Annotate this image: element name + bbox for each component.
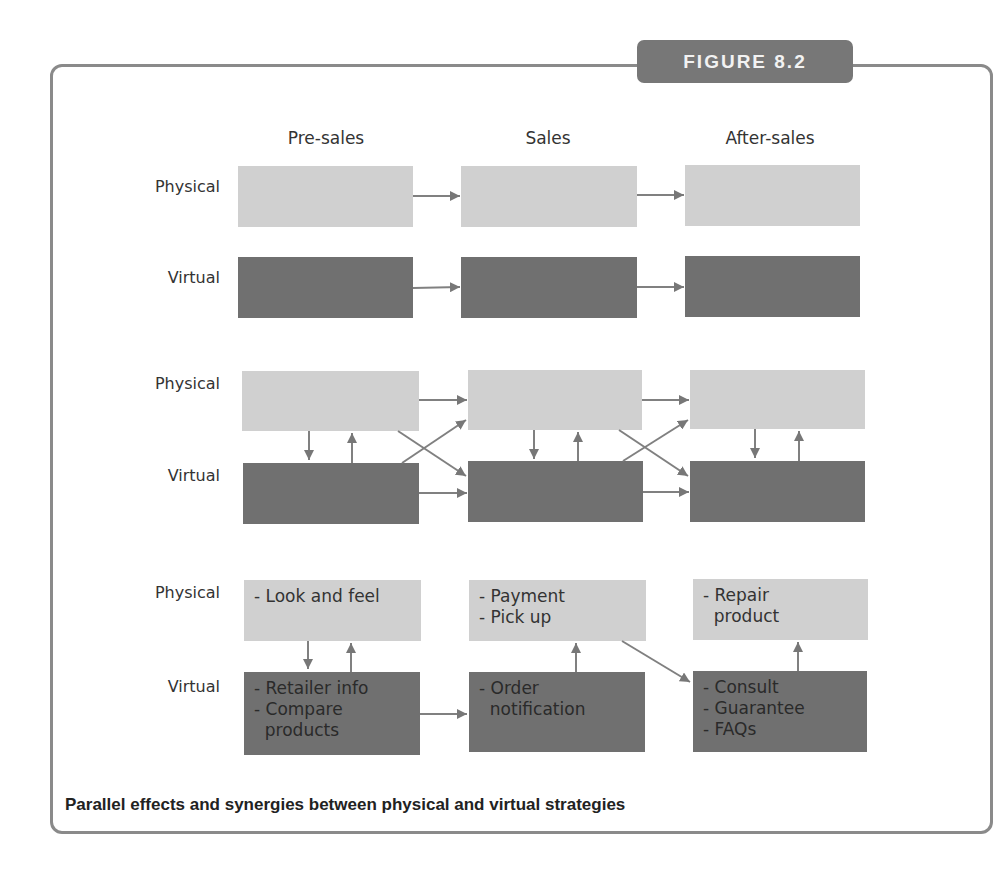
figure-caption: Parallel effects and synergies between p… (65, 795, 625, 815)
arrow-icon (402, 420, 466, 463)
arrows-layer (0, 0, 1007, 880)
arrow-icon (622, 641, 690, 682)
arrow-icon (398, 431, 466, 476)
arrow-icon (413, 287, 460, 288)
arrow-icon (619, 430, 688, 476)
